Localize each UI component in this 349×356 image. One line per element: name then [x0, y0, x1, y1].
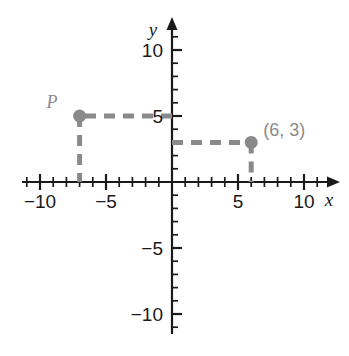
- x-tick-label: 5: [233, 191, 244, 212]
- y-tick-label: 10: [142, 40, 163, 61]
- x-tick-label: −10: [24, 191, 56, 212]
- y-tick-label: −10: [131, 304, 163, 325]
- x-tick-label: 10: [293, 191, 314, 212]
- y-axis-label: y: [147, 19, 158, 40]
- chart-background: [0, 0, 349, 356]
- y-tick-label: −5: [141, 238, 163, 259]
- coordinate-plane-svg: −10−5510105−5−10 P(6, 3) y x: [0, 0, 349, 356]
- point-label-p: P: [46, 92, 58, 112]
- coordinate-plane-figure: −10−5510105−5−10 P(6, 3) y x: [0, 0, 349, 356]
- data-point-p[interactable]: [73, 110, 86, 123]
- data-point-q[interactable]: [245, 136, 258, 149]
- point-label-q: (6, 3): [263, 120, 305, 140]
- x-tick-label: −5: [95, 191, 117, 212]
- y-tick-label: 5: [152, 106, 163, 127]
- x-axis-label: x: [324, 189, 334, 210]
